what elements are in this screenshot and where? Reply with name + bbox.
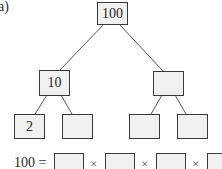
equation-blank-2[interactable] — [105, 153, 135, 169]
edge-left-left — [35, 95, 47, 114]
tree-root-value: 100 — [102, 6, 123, 22]
equation-blank-1[interactable] — [54, 153, 84, 169]
times-sign: × — [192, 156, 199, 169]
tree-level1-box-right[interactable] — [153, 71, 184, 96]
tree-level2-box-1[interactable]: 2 — [14, 114, 45, 139]
equation-lhs: 100 = — [14, 155, 46, 169]
tree-level2-value: 2 — [26, 119, 33, 135]
edge-root-left — [60, 24, 104, 70]
tree-root-box: 100 — [97, 2, 128, 25]
edge-right-left — [151, 95, 162, 114]
edge-right-right — [175, 95, 186, 114]
tree-connectors — [0, 0, 222, 169]
equation-blank-3[interactable] — [156, 153, 186, 169]
tree-level1-value: 10 — [48, 75, 62, 91]
tree-level2-box-4[interactable] — [177, 114, 208, 139]
tree-level2-box-3[interactable] — [129, 114, 160, 139]
times-sign: × — [141, 156, 148, 169]
edge-root-right — [119, 24, 163, 71]
times-sign: × — [90, 156, 97, 169]
equation-blank-4[interactable] — [207, 153, 222, 169]
edge-left-right — [61, 95, 72, 114]
tree-level2-box-2[interactable] — [62, 114, 93, 139]
tree-level1-box-left[interactable]: 10 — [39, 70, 70, 96]
